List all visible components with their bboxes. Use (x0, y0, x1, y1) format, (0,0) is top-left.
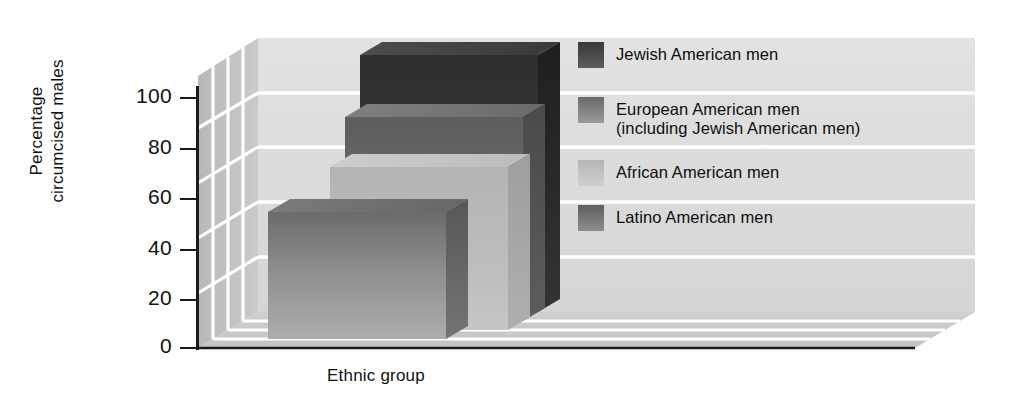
bar-latino-american-men (268, 199, 468, 339)
y-tick-40 (180, 249, 196, 251)
y-tick-label-100: 100 (112, 84, 172, 108)
x-axis-title: Ethnic group (246, 366, 506, 386)
y-tick-label-0: 0 (112, 334, 172, 358)
y-tick-label-80: 80 (112, 135, 172, 159)
y-tick-label-20: 20 (112, 286, 172, 310)
y-tick-100 (180, 97, 196, 99)
legend-label-jewish: Jewish American men (616, 42, 778, 64)
y-axis-title: Percentage circumcised males (26, 6, 68, 256)
legend-label-european: European American men (including Jewish … (616, 97, 860, 138)
legend-label-latino: Latino American men (616, 205, 773, 227)
y-axis-line (196, 86, 199, 350)
y-tick-60 (180, 198, 196, 200)
y-tick-20 (180, 299, 196, 301)
y-tick-0 (180, 347, 196, 349)
y-tick-label-60: 60 (112, 185, 172, 209)
legend-item-latino: Latino American men (576, 205, 773, 231)
y-tick-label-40: 40 (112, 236, 172, 260)
legend-item-african: African American men (576, 160, 779, 186)
legend-label-african: African American men (616, 160, 779, 182)
y-axis-title-line2: circumcised males (47, 6, 68, 256)
plot-side-wall (198, 38, 258, 348)
y-tick-80 (180, 148, 196, 150)
y-axis-title-line1: Percentage (26, 6, 47, 256)
legend-item-jewish: Jewish American men (576, 42, 778, 68)
chart-3d-bar: 0 20 40 60 80 100 Percentage circumcised… (0, 0, 1015, 414)
legend-item-european: European American men (including Jewish … (576, 97, 860, 138)
